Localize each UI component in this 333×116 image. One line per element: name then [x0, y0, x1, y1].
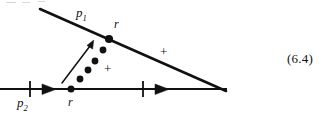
- dot-on-p2: [68, 86, 75, 93]
- direction-arrowhead-1: [42, 84, 56, 95]
- line-label-p2: p2: [17, 96, 28, 112]
- line-p1: [40, 9, 226, 91]
- point-label-r-lower: r: [68, 96, 73, 108]
- line-label-p2-subscript: 2: [24, 103, 28, 113]
- point-label-r-upper: r: [114, 18, 119, 30]
- dot-1: [77, 76, 84, 83]
- dot-3: [92, 58, 99, 65]
- plus-sign-right: +: [160, 45, 167, 58]
- dot-2: [85, 67, 92, 74]
- dot-on-p1: [105, 35, 113, 43]
- direction-arrowhead-2: [155, 84, 169, 95]
- dot-4: [100, 47, 107, 54]
- line-label-p1: p1: [76, 6, 87, 22]
- line-label-p1-subscript: 1: [83, 13, 87, 23]
- crossing-direction-arrow: [62, 44, 92, 83]
- equation-figure: p1 p2 r r + + (6.4): [0, 0, 333, 116]
- plus-sign-left: +: [104, 62, 111, 75]
- equation-number: (6.4): [287, 51, 313, 67]
